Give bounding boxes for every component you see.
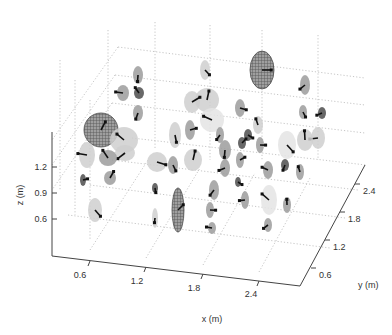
- uncertainty-ellipsoid: [217, 159, 230, 177]
- x-tick-label: 0.6: [74, 270, 87, 280]
- uncertainty-ellipsoid: [296, 164, 304, 180]
- uncertainty-ellipsoid: [134, 86, 144, 99]
- uncertainty-ellipsoid: [297, 129, 313, 151]
- uncertainty-ellipsoid: [133, 66, 143, 84]
- uncertainty-ellipsoid: [152, 208, 158, 228]
- y-tick-label: 2.4: [363, 186, 376, 196]
- uncertainty-ellipsoid: [205, 222, 216, 234]
- x-tick-label: 2.4: [245, 289, 258, 299]
- x-axis-label: x (m): [202, 314, 223, 324]
- uncertainty-ellipsoid: [76, 142, 95, 168]
- uncertainty-ellipsoid: [235, 177, 243, 187]
- uncertainty-ellipsoid-large: [172, 188, 185, 232]
- 3d-scatter-plot: 1.2 0.9 0.6 0.6 1.2 1.8 2.4 0.6 1.2 1.8 …: [0, 0, 392, 335]
- uncertainty-ellipsoid: [209, 180, 219, 200]
- uncertainty-ellipsoid: [184, 149, 202, 171]
- uncertainty-ellipsoid: [104, 170, 116, 185]
- uncertainty-ellipsoid: [152, 183, 158, 194]
- z-axis-label: z (m): [15, 185, 25, 206]
- uncertainty-ellipsoid: [299, 105, 307, 119]
- y-axis-line: [300, 165, 365, 286]
- uncertainty-ellipsoid: [253, 116, 263, 134]
- uncertainty-ellipsoid: [262, 218, 272, 232]
- uncertainty-ellipsoid: [236, 152, 246, 168]
- uncertainty-ellipsoid: [169, 122, 181, 148]
- uncertainty-ellipsoid: [115, 145, 135, 161]
- uncertainty-ellipsoid: [114, 85, 129, 101]
- uncertainty-ellipsoid: [88, 198, 102, 222]
- ellipsoid-markers: [76, 51, 326, 234]
- uncertainty-ellipsoid: [99, 149, 117, 166]
- uncertainty-ellipsoid: [298, 75, 310, 95]
- x-tick-label: 1.2: [131, 276, 144, 286]
- y-tick-label: 1.8: [348, 214, 361, 224]
- uncertainty-ellipsoid: [238, 191, 249, 209]
- uncertainty-ellipsoid: [200, 60, 211, 80]
- y-tick-label: 1.2: [333, 242, 346, 252]
- uncertainty-ellipsoid: [206, 202, 217, 218]
- uncertainty-ellipsoid: [147, 152, 167, 172]
- uncertainty-ellipsoid: [261, 161, 273, 179]
- uncertainty-ellipsoid: [168, 156, 178, 174]
- uncertainty-ellipsoid: [219, 140, 231, 160]
- z-tick-label: 0.9: [34, 188, 47, 198]
- y-axis-label: y (m): [358, 280, 379, 290]
- uncertainty-ellipsoid: [283, 197, 291, 213]
- uncertainty-ellipsoid: [261, 185, 277, 215]
- uncertainty-ellipsoid: [80, 174, 89, 186]
- uncertainty-ellipsoid: [185, 120, 198, 140]
- uncertainty-ellipsoid: [315, 107, 326, 119]
- uncertainty-ellipsoid: [133, 105, 143, 121]
- uncertainty-ellipsoid: [281, 159, 289, 172]
- x-axis-line: [52, 256, 300, 286]
- y-tick-label: 0.6: [319, 270, 332, 280]
- uncertainty-ellipsoid-large: [250, 51, 274, 89]
- uncertainty-ellipsoid: [238, 137, 247, 149]
- uncertainty-ellipsoid: [256, 137, 267, 153]
- z-tick-label: 1.2: [34, 162, 47, 172]
- z-tick-label: 0.6: [34, 214, 47, 224]
- uncertainty-ellipsoid: [235, 99, 248, 117]
- x-tick-label: 1.8: [188, 283, 201, 293]
- uncertainty-ellipsoid: [278, 131, 296, 159]
